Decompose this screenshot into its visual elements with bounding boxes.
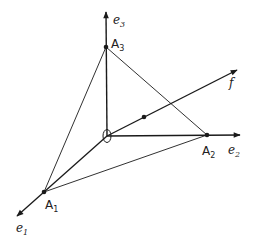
label-f: f <box>228 76 236 90</box>
vector-f <box>107 70 237 136</box>
label-e3: e3 <box>113 13 125 29</box>
edge-a3-a2 <box>106 47 207 135</box>
label-a1: A1 <box>45 198 58 214</box>
point-f <box>142 115 147 120</box>
label-a3: A3 <box>111 37 124 53</box>
point-a2 <box>205 133 210 138</box>
diagram-canvas: e3 A3 f A2 e2 A1 e1 <box>0 0 253 239</box>
axis-e1 <box>17 136 107 216</box>
axis-e3 <box>106 12 107 136</box>
edge-a1-a3 <box>44 47 106 192</box>
axis-e2 <box>107 135 240 136</box>
label-a2: A2 <box>202 144 215 160</box>
point-a1 <box>42 190 47 195</box>
edge-a1-a2 <box>44 135 207 192</box>
label-e2: e2 <box>228 143 240 159</box>
point-a3 <box>104 45 109 50</box>
label-e1: e1 <box>16 221 28 237</box>
